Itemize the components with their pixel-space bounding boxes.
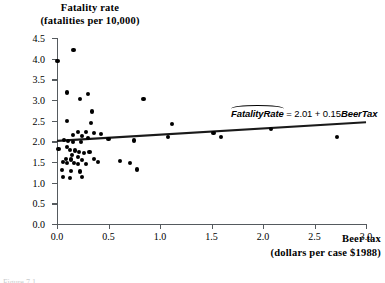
y-tick-label: 3.0 — [33, 95, 46, 106]
data-point — [132, 138, 136, 142]
data-point — [106, 137, 110, 141]
x-axis-title-line1: Beer tax — [131, 232, 381, 246]
data-point — [68, 148, 72, 152]
y-tick-label: 2.5 — [33, 115, 46, 126]
plot-area: 0.00.51.01.52.02.53.03.54.04.5 0.00.51.0… — [57, 38, 366, 224]
data-point — [86, 92, 90, 96]
equation-intercept: 2.01 — [294, 108, 312, 119]
data-point — [78, 169, 82, 173]
data-point — [78, 97, 82, 101]
equation-slope: 0.15 — [323, 108, 341, 119]
x-tick — [315, 224, 316, 229]
data-point — [61, 160, 65, 164]
data-point — [141, 97, 145, 101]
data-point — [87, 150, 91, 154]
data-point — [82, 151, 86, 155]
data-point — [80, 158, 84, 162]
equation-rhs: BeerTax — [341, 108, 377, 119]
equation-lhs: FatalityRate — [231, 108, 284, 119]
data-point — [76, 130, 80, 134]
x-axis-title: Beer tax (dollars per case $1988) — [131, 232, 381, 260]
y-axis-title: Fatality rate (fatalities per 10,000) — [0, 1, 180, 27]
data-point — [211, 131, 215, 135]
y-tick-label: 3.5 — [33, 74, 46, 85]
data-point — [55, 59, 59, 63]
y-tick-label: 4.0 — [33, 53, 46, 64]
y-tick-label: 2.0 — [33, 136, 46, 147]
data-point — [90, 109, 94, 113]
x-tick — [109, 224, 110, 229]
y-tick-label: 0.0 — [33, 219, 46, 230]
regression-equation-annotation: FatalityRate = 2.01 + 0.15BeerTax — [231, 108, 377, 119]
data-point — [219, 135, 223, 139]
data-point — [135, 167, 139, 171]
data-point — [118, 159, 122, 163]
x-tick — [212, 224, 213, 229]
data-point — [92, 131, 96, 135]
data-point — [71, 140, 75, 144]
data-point — [84, 130, 88, 134]
x-tick — [263, 224, 264, 229]
data-point — [56, 147, 60, 151]
x-tick — [57, 224, 58, 229]
x-tick-label: 0.0 — [51, 231, 64, 242]
cut-off-caption: Figure 7.1 — [3, 278, 36, 283]
y-tick-label: 1.5 — [33, 157, 46, 168]
y-tick-label: 4.5 — [33, 33, 46, 44]
y-tick-label: 0.5 — [33, 198, 46, 209]
x-tick-label: 0.5 — [102, 231, 115, 242]
x-axis-title-line2: (dollars per case $1988) — [131, 246, 381, 260]
x-tick — [160, 224, 161, 229]
x-tick — [366, 224, 367, 229]
y-axis-title-line2: (fatalities per 10,000) — [0, 14, 180, 27]
y-tick-label: 1.0 — [33, 177, 46, 188]
data-point — [86, 136, 90, 140]
y-axis-title-line1: Fatality rate — [0, 1, 180, 14]
